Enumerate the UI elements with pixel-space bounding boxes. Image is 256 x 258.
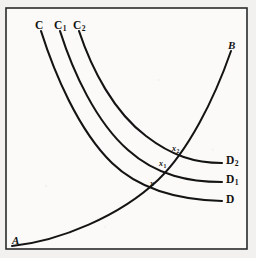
label-point-x1: x1 [159, 160, 166, 169]
label-point-x: x [150, 180, 154, 188]
label-endpoint-a: A [12, 235, 19, 246]
label-curve-d1: D1 [226, 174, 239, 187]
label-endpoint-b: B [228, 40, 235, 51]
diagram-canvas [0, 0, 256, 258]
label-curve-d2: D2 [226, 155, 239, 168]
label-point-x2: x2 [172, 145, 179, 154]
label-curve-c2: C2 [73, 20, 86, 33]
label-curve-c1: C1 [54, 20, 67, 33]
plot-background [7, 9, 246, 248]
label-curve-d: D [226, 194, 234, 206]
figure-container: C C1 C2 D2 D1 D A B x x1 x2 [0, 0, 256, 258]
label-curve-c: C [35, 20, 43, 32]
